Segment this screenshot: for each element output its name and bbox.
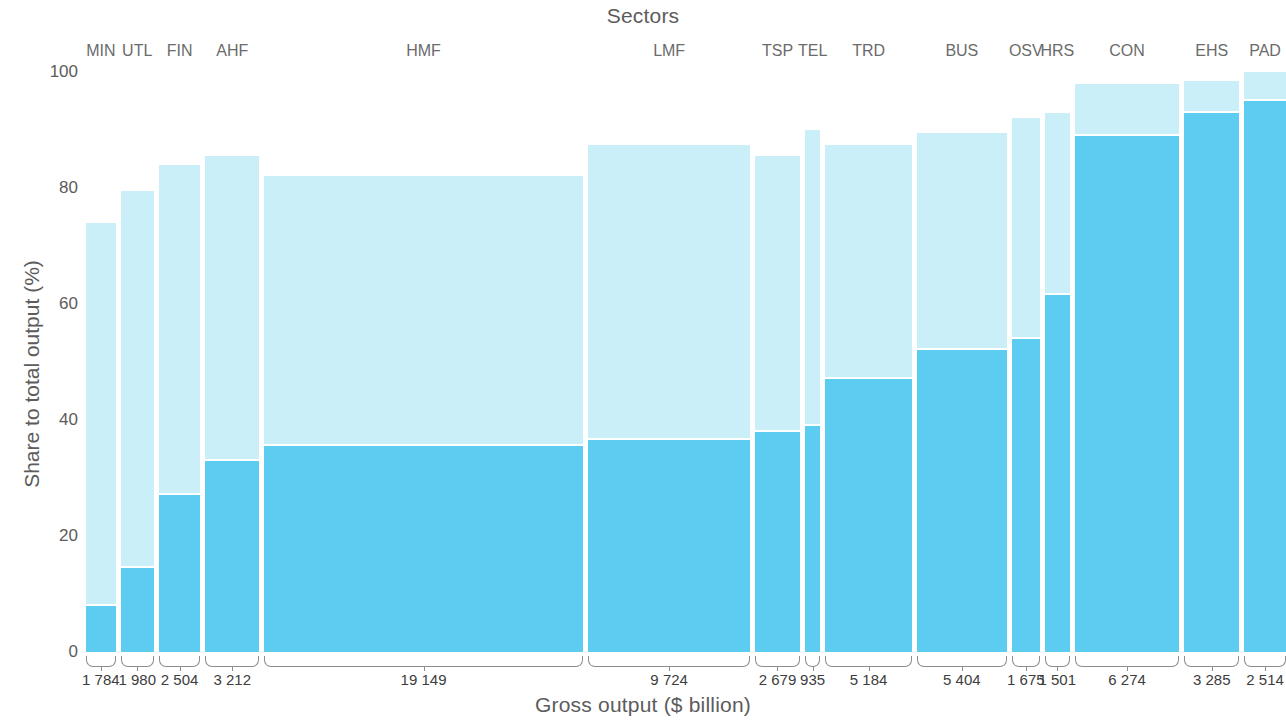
bar-lmf[interactable] bbox=[588, 145, 750, 653]
bracket-group bbox=[86, 652, 1286, 672]
y-axis-tick-40: 40 bbox=[18, 410, 78, 430]
sector-label-ehs: EHS bbox=[1195, 42, 1228, 60]
value-label-tel: 935 bbox=[800, 671, 825, 688]
bar-tel[interactable] bbox=[805, 130, 821, 652]
bracket-utl bbox=[121, 656, 154, 667]
bar-segment-lower-con[interactable] bbox=[1075, 136, 1180, 652]
bar-segment-upper-tel[interactable] bbox=[805, 130, 821, 424]
value-label-ahf: 3 212 bbox=[213, 671, 251, 688]
bracket-osv bbox=[1012, 656, 1040, 667]
bar-segment-lower-tel[interactable] bbox=[805, 426, 821, 652]
sector-label-pad: PAD bbox=[1249, 42, 1281, 60]
plot-area bbox=[86, 72, 1286, 652]
bar-osv[interactable] bbox=[1012, 118, 1040, 652]
sector-label-trd: TRD bbox=[852, 42, 885, 60]
bracket-tel bbox=[805, 656, 821, 667]
sector-label-min: MIN bbox=[86, 42, 115, 60]
bar-segment-upper-lmf[interactable] bbox=[588, 145, 750, 439]
bracket-ehs bbox=[1184, 656, 1239, 667]
bar-segment-lower-fin[interactable] bbox=[159, 495, 201, 652]
value-label-hrs: 1 501 bbox=[1039, 671, 1077, 688]
value-label-lmf: 9 724 bbox=[650, 671, 688, 688]
bracket-ahf bbox=[205, 656, 259, 667]
bar-min[interactable] bbox=[86, 223, 116, 652]
bracket-con bbox=[1075, 656, 1180, 667]
y-axis-title: Share to total output (%) bbox=[20, 74, 44, 674]
bar-segment-lower-osv[interactable] bbox=[1012, 339, 1040, 652]
y-axis-tick-20: 20 bbox=[18, 526, 78, 546]
sector-label-ahf: AHF bbox=[216, 42, 248, 60]
value-label-utl: 1 980 bbox=[118, 671, 156, 688]
bar-segment-lower-hmf[interactable] bbox=[264, 446, 583, 652]
bar-segment-lower-ehs[interactable] bbox=[1184, 113, 1239, 652]
bracket-tsp bbox=[755, 656, 800, 667]
bar-con[interactable] bbox=[1075, 84, 1180, 652]
bracket-bus bbox=[917, 656, 1007, 667]
sector-label-fin: FIN bbox=[167, 42, 193, 60]
bar-segment-lower-lmf[interactable] bbox=[588, 440, 750, 652]
value-label-min: 1 784 bbox=[82, 671, 120, 688]
bar-segment-upper-bus[interactable] bbox=[917, 133, 1007, 349]
bar-segment-lower-pad[interactable] bbox=[1244, 101, 1286, 652]
bar-segment-upper-hrs[interactable] bbox=[1045, 113, 1070, 294]
value-label-bus: 5 404 bbox=[943, 671, 981, 688]
value-label-con: 6 274 bbox=[1108, 671, 1146, 688]
bracket-pad bbox=[1244, 656, 1286, 667]
value-label-trd: 5 184 bbox=[850, 671, 888, 688]
bar-segment-upper-pad[interactable] bbox=[1244, 72, 1286, 99]
bar-segment-upper-utl[interactable] bbox=[121, 191, 154, 566]
bar-segment-lower-min[interactable] bbox=[86, 606, 116, 652]
sector-label-bus: BUS bbox=[945, 42, 978, 60]
y-axis-tick-60: 60 bbox=[18, 294, 78, 314]
bar-segment-upper-ehs[interactable] bbox=[1184, 81, 1239, 111]
bar-segment-upper-tsp[interactable] bbox=[755, 156, 800, 430]
marimekko-chart: Sectors Share to total output (%) 100806… bbox=[0, 0, 1286, 721]
sector-label-hmf: HMF bbox=[406, 42, 441, 60]
y-axis-tick-100: 100 bbox=[18, 62, 78, 82]
bar-pad[interactable] bbox=[1244, 72, 1286, 652]
bar-segment-upper-trd[interactable] bbox=[825, 145, 911, 378]
bar-segment-upper-min[interactable] bbox=[86, 223, 116, 604]
bar-segment-lower-bus[interactable] bbox=[917, 350, 1007, 652]
bar-utl[interactable] bbox=[121, 191, 154, 652]
y-axis-tick-80: 80 bbox=[18, 178, 78, 198]
sector-label-tsp: TSP bbox=[762, 42, 793, 60]
bar-segment-lower-trd[interactable] bbox=[825, 379, 911, 652]
bar-ahf[interactable] bbox=[205, 156, 259, 652]
bar-segment-upper-hmf[interactable] bbox=[264, 176, 583, 444]
bar-segment-lower-ahf[interactable] bbox=[205, 461, 259, 652]
value-label-hmf: 19 149 bbox=[401, 671, 447, 688]
bar-segment-upper-ahf[interactable] bbox=[205, 156, 259, 459]
bar-segment-upper-con[interactable] bbox=[1075, 84, 1180, 134]
y-axis-tick-0: 0 bbox=[18, 642, 78, 662]
bar-bus[interactable] bbox=[917, 133, 1007, 652]
bar-segment-lower-utl[interactable] bbox=[121, 568, 154, 652]
value-label-tsp: 2 679 bbox=[759, 671, 797, 688]
bar-fin[interactable] bbox=[159, 165, 201, 652]
bracket-lmf bbox=[588, 656, 750, 667]
bar-segment-lower-tsp[interactable] bbox=[755, 432, 800, 652]
bar-tsp[interactable] bbox=[755, 156, 800, 652]
bracket-hrs bbox=[1045, 656, 1070, 667]
value-label-fin: 2 504 bbox=[161, 671, 199, 688]
bracket-fin bbox=[159, 656, 201, 667]
bar-segment-upper-fin[interactable] bbox=[159, 165, 201, 494]
sector-label-tel: TEL bbox=[798, 42, 827, 60]
sector-label-con: CON bbox=[1109, 42, 1145, 60]
value-label-pad: 2 514 bbox=[1246, 671, 1284, 688]
bar-segment-lower-hrs[interactable] bbox=[1045, 295, 1070, 652]
sector-label-hrs: HRS bbox=[1040, 42, 1074, 60]
bar-hmf[interactable] bbox=[264, 176, 583, 652]
bar-ehs[interactable] bbox=[1184, 81, 1239, 652]
value-label-ehs: 3 285 bbox=[1193, 671, 1231, 688]
chart-top-title: Sectors bbox=[0, 4, 1286, 28]
bar-trd[interactable] bbox=[825, 145, 911, 653]
x-axis-title: Gross output ($ billion) bbox=[0, 693, 1286, 717]
bar-hrs[interactable] bbox=[1045, 113, 1070, 652]
bracket-min bbox=[86, 656, 116, 667]
bar-segment-upper-osv[interactable] bbox=[1012, 118, 1040, 336]
sector-label-lmf: LMF bbox=[653, 42, 685, 60]
bracket-hmf bbox=[264, 656, 583, 667]
bracket-trd bbox=[825, 656, 911, 667]
sector-label-osv: OSV bbox=[1009, 42, 1043, 60]
